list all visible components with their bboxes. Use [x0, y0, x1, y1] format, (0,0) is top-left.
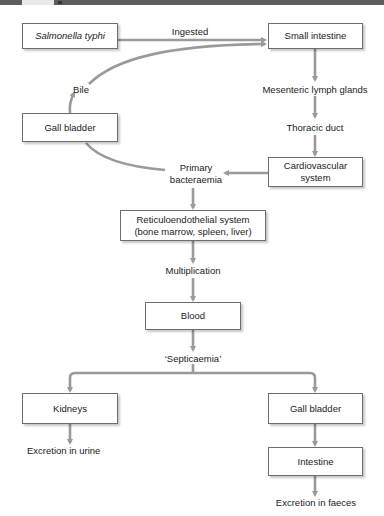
arrow-septicaemia-to-gallbladder [193, 373, 315, 391]
node-label-line1: Cardiovascular [284, 160, 347, 172]
arrow-septicaemia-to-kidneys [70, 373, 193, 391]
node-label-line2: system [300, 172, 330, 184]
node-small-intestine: Small intestine [268, 23, 363, 49]
node-kidneys: Kidneys [22, 393, 118, 424]
node-intestine: Intestine [268, 447, 363, 476]
node-gall-bladder-right: Gall bladder [268, 393, 363, 424]
line-gallbladder-to-primary [86, 143, 165, 170]
node-cardiovascular-system: Cardiovascular system [268, 157, 363, 187]
label-thoracic-duct: Thoracic duct [265, 122, 365, 134]
label-septicaemia: ‘Septicaemia’ [143, 353, 243, 365]
arrow-bile-to-small-intestine [89, 44, 265, 84]
label-bile: Bile [66, 84, 96, 96]
node-reticuloendothelial-system: Reticuloendothelial system (bone marrow,… [120, 210, 266, 241]
label-primary-bacteraemia-line1: Primary [158, 162, 234, 174]
node-label: Intestine [298, 456, 334, 468]
node-gall-bladder-left: Gall bladder [22, 113, 118, 142]
node-label: Kidneys [53, 403, 87, 415]
label-ingested: Ingested [160, 26, 220, 38]
label-multiplication: Multiplication [143, 265, 243, 277]
node-label: Salmonella typhi [35, 30, 105, 42]
node-label-line2: (bone marrow, spleen, liver) [134, 226, 251, 238]
node-label: Blood [181, 310, 205, 322]
node-blood: Blood [145, 302, 241, 330]
connector-layer [0, 0, 384, 516]
node-label-line1: Reticuloendothelial system [136, 214, 249, 226]
arrow-gallbladder-to-bile [70, 93, 74, 113]
label-excretion-in-urine: Excretion in urine [20, 445, 127, 457]
node-label: Gall bladder [44, 122, 95, 134]
label-primary-bacteraemia-line2: bacteraemia [158, 174, 234, 186]
node-salmonella-typhi: Salmonella typhi [22, 23, 118, 49]
label-excretion-in-faeces: Excretion in faeces [260, 497, 372, 509]
node-label: Small intestine [285, 30, 347, 42]
label-mesenteric-lymph-glands: Mesenteric lymph glands [250, 84, 380, 96]
node-label: Gall bladder [290, 403, 341, 415]
